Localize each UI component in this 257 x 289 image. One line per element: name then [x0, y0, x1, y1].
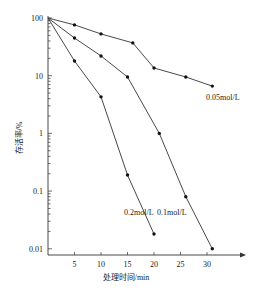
- y-tick-label: 0.1: [33, 187, 43, 196]
- data-point: [184, 195, 187, 198]
- y-tick-label: 1: [39, 129, 43, 138]
- data-point: [211, 247, 214, 250]
- survival-rate-chart: 1001010.10.0151015202530 处理时间/min存活率/%0.…: [0, 0, 257, 289]
- x-axis-title: 处理时间/min: [103, 272, 150, 282]
- series-label: 0.2mol/L: [124, 208, 154, 217]
- data-point: [73, 36, 76, 39]
- x-tick-label: 10: [97, 260, 105, 269]
- data-point: [152, 66, 155, 69]
- data-point: [126, 173, 129, 176]
- series-line: [48, 18, 154, 234]
- data-point: [99, 95, 102, 98]
- x-tick-label: 15: [124, 260, 132, 269]
- data-point: [184, 75, 187, 78]
- data-point: [73, 23, 76, 26]
- x-axis-arrow-icon: [240, 253, 246, 258]
- series-line: [48, 18, 212, 86]
- x-tick-label: 5: [73, 260, 77, 269]
- data-point: [73, 59, 76, 62]
- x-tick-label: 25: [177, 260, 185, 269]
- series-label: 0.1mol/L: [157, 208, 187, 217]
- data-point: [99, 32, 102, 35]
- y-tick-label: 100: [31, 14, 43, 23]
- y-tick-label: 0.01: [29, 245, 43, 254]
- data-point: [99, 54, 102, 57]
- x-tick-label: 30: [203, 260, 211, 269]
- axes: 1001010.10.0151015202530: [29, 14, 246, 269]
- y-tick-label: 10: [35, 72, 43, 81]
- data-point: [131, 41, 134, 44]
- data-point: [211, 84, 214, 87]
- data-point: [126, 75, 129, 78]
- y-axis-title: 存活率/%: [14, 121, 24, 154]
- data-point: [158, 132, 161, 135]
- x-tick-label: 20: [150, 260, 158, 269]
- data-point: [152, 232, 155, 235]
- series-label: 0.05mol/L: [206, 93, 240, 102]
